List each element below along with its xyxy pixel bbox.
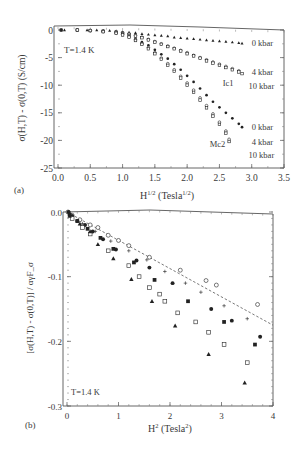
data-point xyxy=(95,29,98,32)
data-point xyxy=(192,81,195,84)
data-point xyxy=(134,35,137,38)
data-point xyxy=(222,304,226,308)
data-point xyxy=(199,290,203,294)
data-point xyxy=(207,330,211,334)
data-point xyxy=(205,60,208,63)
data-point xyxy=(237,122,240,125)
x-tick-label: 0.0 xyxy=(52,173,64,183)
data-point xyxy=(166,64,169,67)
x-tick-label: 3.0 xyxy=(246,173,258,183)
data-point xyxy=(173,324,177,328)
panel-a-annotation: T=1.4 K xyxy=(64,45,95,55)
data-point xyxy=(241,72,244,75)
panel-b-y-axis-label: [σ(H,T) - σ(0,T)] / αγF_σ xyxy=(25,262,35,354)
data-point xyxy=(238,71,241,74)
data-point xyxy=(115,32,118,35)
series-label: 10 kbar xyxy=(248,150,274,160)
data-point xyxy=(89,29,92,32)
data-point xyxy=(206,352,210,356)
data-point xyxy=(192,91,195,94)
data-point xyxy=(179,36,182,39)
y-tick-label: -25 xyxy=(40,164,53,174)
data-point xyxy=(231,117,234,120)
panel-b-chart: 01234 0.0-0.1-0.2-0.3 T=1.4 K (b) H2 (Te… xyxy=(25,208,276,436)
data-point xyxy=(117,238,121,242)
y-tick-label: 0.0 xyxy=(51,208,63,218)
data-point xyxy=(153,33,156,36)
data-point xyxy=(241,126,244,129)
data-point xyxy=(150,299,154,303)
data-point xyxy=(205,94,208,97)
data-point xyxy=(106,249,110,253)
x-tick-label: 3 xyxy=(219,411,224,421)
data-point xyxy=(218,64,221,67)
data-point xyxy=(147,255,151,259)
data-point xyxy=(108,29,111,32)
data-point xyxy=(166,35,169,38)
panel-a-series-labels: 0 kbar4 kbar10 kbar0 kbar4 kbar10 kbarIc… xyxy=(210,38,275,160)
data-point xyxy=(63,29,66,32)
y-tick-label: -0.2 xyxy=(48,337,62,347)
data-point xyxy=(179,68,182,71)
data-point xyxy=(199,87,202,90)
data-point xyxy=(204,279,208,283)
data-point xyxy=(222,320,226,324)
data-point xyxy=(75,219,79,223)
data-point xyxy=(179,50,182,53)
data-point xyxy=(96,226,100,230)
panel-a-label: (a) xyxy=(14,185,24,195)
data-point xyxy=(186,37,189,40)
series-label: 0 kbar xyxy=(252,38,274,48)
data-point xyxy=(241,42,244,45)
data-point xyxy=(245,361,249,365)
data-point xyxy=(86,227,90,231)
data-point xyxy=(205,38,208,41)
data-point xyxy=(173,47,176,50)
data-point xyxy=(154,41,157,44)
data-point xyxy=(176,311,180,315)
data-point xyxy=(173,70,176,73)
data-point xyxy=(212,62,215,65)
data-point xyxy=(163,270,167,274)
data-point xyxy=(129,277,133,281)
data-point xyxy=(86,29,89,32)
panel-b-y-ticks: 0.0-0.1-0.2-0.3 xyxy=(48,208,273,412)
data-point xyxy=(60,29,63,32)
y-tick-label: -0.1 xyxy=(48,272,62,282)
series-label: 10 kbar xyxy=(248,81,274,91)
data-point xyxy=(245,317,249,321)
data-point xyxy=(134,39,137,42)
data-point xyxy=(137,275,141,279)
data-point xyxy=(141,43,144,46)
data-point xyxy=(134,31,137,34)
data-point xyxy=(88,223,92,227)
data-point xyxy=(192,55,195,58)
data-point xyxy=(127,244,131,248)
data-point xyxy=(163,299,167,303)
data-point xyxy=(102,30,105,33)
series-label: Ic1 xyxy=(223,78,234,88)
data-point xyxy=(256,302,260,306)
data-point xyxy=(218,106,221,109)
data-point xyxy=(242,381,246,385)
data-point xyxy=(237,41,240,44)
data-point xyxy=(178,268,182,272)
x-tick-label: 1.5 xyxy=(149,173,161,183)
data-point xyxy=(109,239,113,243)
data-point xyxy=(194,320,198,324)
data-point xyxy=(166,57,169,60)
data-point xyxy=(230,319,234,323)
data-point xyxy=(173,36,176,39)
data-point xyxy=(258,335,262,339)
data-point xyxy=(158,292,162,296)
x-tick-label: 1.0 xyxy=(117,173,129,183)
y-tick-label: -15 xyxy=(40,108,53,118)
data-point xyxy=(148,286,152,290)
data-point xyxy=(141,36,144,39)
data-point xyxy=(205,107,208,110)
x-tick-label: 3.5 xyxy=(278,173,290,183)
series-label: 4 kbar xyxy=(252,67,274,77)
data-point xyxy=(140,32,143,35)
data-point xyxy=(153,278,157,282)
x-tick-label: 2 xyxy=(168,411,173,421)
